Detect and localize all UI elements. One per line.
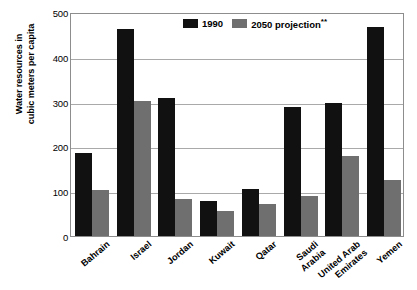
- legend-label: 2050 projection**: [251, 17, 327, 30]
- x-tick-label: Yemen: [374, 239, 403, 266]
- bar: [259, 204, 276, 236]
- bar: [384, 180, 401, 236]
- bar: [92, 190, 109, 236]
- bar: [325, 103, 342, 237]
- x-tick-label: Kuwait: [207, 239, 237, 266]
- legend-footnote-marker: **: [321, 17, 327, 26]
- bar: [134, 101, 151, 236]
- bars-layer: [71, 14, 403, 236]
- bar: [75, 153, 92, 236]
- legend-label: 1990: [202, 18, 223, 29]
- legend-swatch: [183, 19, 198, 28]
- x-tick-label-line: Kuwait: [207, 239, 237, 266]
- plot-area: [70, 13, 404, 237]
- bar-group: [71, 14, 113, 236]
- x-tick-label: Bahrain: [79, 239, 112, 269]
- x-tick-label-line: Bahrain: [79, 239, 112, 269]
- bar: [200, 201, 217, 236]
- x-tick-label: United ArabEmirates: [316, 239, 369, 288]
- bar: [342, 156, 359, 236]
- bar: [158, 98, 175, 236]
- bar-group: [113, 14, 155, 236]
- y-tick-label: 300: [40, 97, 68, 108]
- legend-entry[interactable]: 2050 projection**: [232, 17, 327, 30]
- bar-group: [363, 14, 405, 236]
- y-axis-tick-labels: 0100200300400500: [40, 0, 68, 290]
- x-axis-tick-labels: BahrainIsraelJordanKuwaitQatarSaudiArabi…: [70, 237, 404, 290]
- y-tick-label: 0: [40, 232, 68, 243]
- chart-legend: 19902050 projection**: [183, 17, 327, 30]
- bar-group: [238, 14, 280, 236]
- bar-group: [322, 14, 364, 236]
- bar-group: [155, 14, 197, 236]
- bar: [367, 27, 384, 236]
- x-tick-label: Israel: [128, 239, 153, 262]
- legend-entry[interactable]: 1990: [183, 18, 223, 29]
- bar-group: [280, 14, 322, 236]
- x-tick-label: Jordan: [165, 239, 195, 267]
- bar: [117, 29, 134, 236]
- bar: [284, 107, 301, 236]
- x-tick-label-line: Qatar: [253, 239, 278, 262]
- x-tick-label-line: Yemen: [374, 239, 403, 266]
- y-tick-label: 200: [40, 142, 68, 153]
- water-resources-bar-chart: Water resources in cubic meters per capi…: [0, 0, 417, 290]
- bar: [301, 196, 318, 236]
- x-tick-label-line: Jordan: [165, 239, 195, 267]
- y-tick-label: 500: [40, 8, 68, 19]
- y-tick-label: 100: [40, 187, 68, 198]
- bar: [217, 211, 234, 236]
- y-axis-title-line-1: Water resources in: [14, 0, 26, 159]
- x-tick-label: Qatar: [253, 239, 278, 262]
- bar: [175, 199, 192, 236]
- x-tick-label-line: Israel: [128, 239, 153, 262]
- y-tick-label: 400: [40, 52, 68, 63]
- legend-swatch: [232, 19, 247, 28]
- bar: [242, 189, 259, 236]
- y-axis-title-line-2: cubic meters per capita: [26, 0, 38, 159]
- bar-group: [196, 14, 238, 236]
